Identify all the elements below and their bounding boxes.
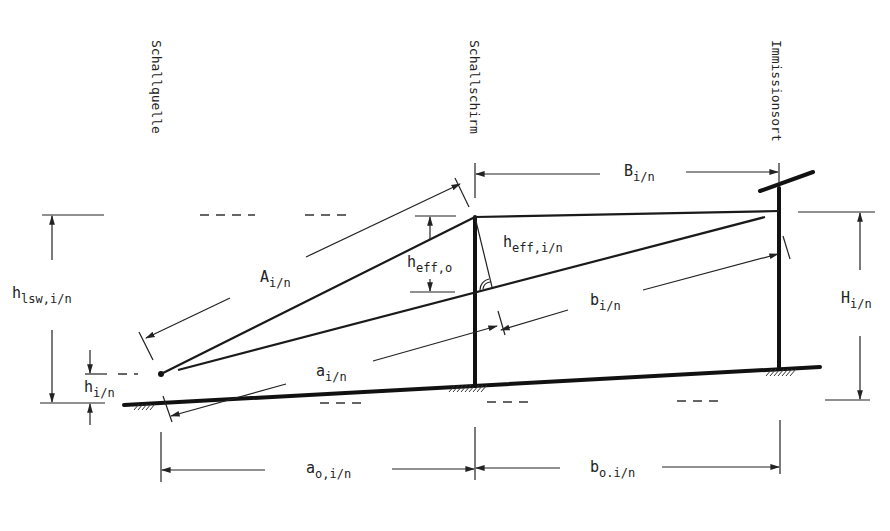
column-title-screen: Schallschirm [467, 40, 482, 134]
b-arrow-right [643, 254, 778, 290]
svg-text:Schallquelle: Schallquelle [149, 40, 164, 134]
label-b: bi/n [590, 291, 621, 313]
svg-text:Immissionsort: Immissionsort [769, 40, 784, 142]
path-source-to-barrier-top [161, 217, 475, 374]
label-B: Bi/n [624, 162, 655, 184]
label-h-eff-in: heff,i/n [503, 233, 563, 255]
label-h-i: hi/n [84, 378, 115, 400]
b-arrow-left [501, 310, 568, 330]
label-H: Hi/n [841, 289, 872, 311]
svg-text:Schallschirm: Schallschirm [467, 40, 482, 134]
label-a-o: ao,i/n [306, 459, 351, 481]
receiver-marker [760, 172, 813, 191]
ground-line [124, 367, 820, 405]
label-a: ai/n [316, 362, 347, 384]
heff-perpendicular [475, 217, 492, 287]
label-h-lsw: hlsw,i/n [12, 284, 72, 306]
column-title-source: Schallquelle [149, 40, 164, 134]
label-A: Ai/n [260, 268, 291, 290]
column-title-receiver: Immissionsort [769, 40, 784, 142]
a-arrow-right [373, 326, 497, 361]
A-arrow-right [306, 184, 460, 257]
barrier-top-line [475, 211, 779, 217]
noise-barrier-geometry-diagram: Schallquelle Schallschirm Immissionsort [0, 0, 890, 531]
A-arrow-left [146, 298, 230, 338]
path-direct [178, 217, 765, 370]
label-b-o: bo.i/n [590, 458, 635, 480]
label-h-eff-o: heff,o [407, 253, 452, 275]
